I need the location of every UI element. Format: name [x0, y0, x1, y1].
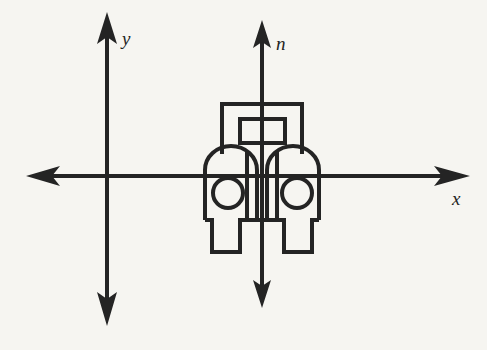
figure-canvas: y x n — [0, 0, 487, 350]
y-axis-label: y — [120, 28, 131, 49]
vehicle-left-tire — [205, 220, 257, 252]
vehicle-right-tire — [267, 220, 319, 252]
x-axis-label: x — [451, 188, 461, 209]
vehicle-left-headlight — [213, 178, 243, 208]
vehicle-right-headlight — [282, 178, 312, 208]
y-axis: y — [97, 12, 131, 326]
n-axis-label: n — [276, 33, 286, 54]
coordinate-plane-diagram: y x n — [0, 0, 487, 350]
